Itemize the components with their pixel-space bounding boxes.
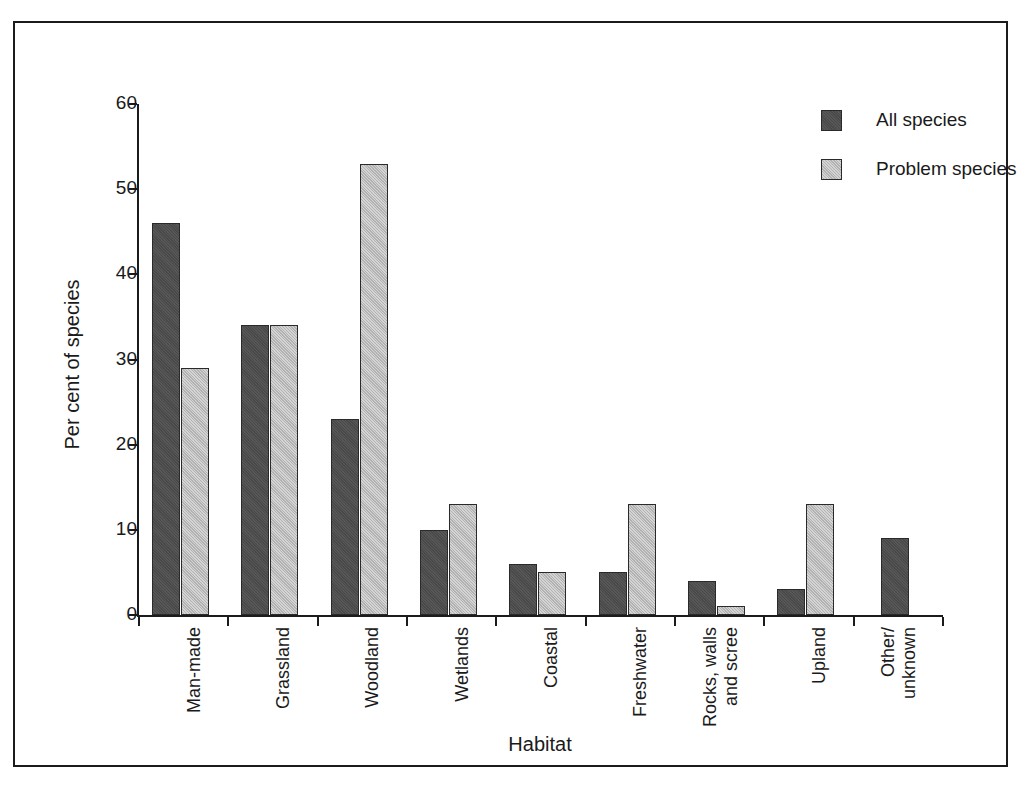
bar-all-species bbox=[599, 572, 627, 615]
chart-legend: All speciesProblem species bbox=[821, 109, 1016, 207]
bar-group bbox=[407, 104, 496, 615]
y-tick-label: 60 bbox=[91, 93, 137, 112]
bar-problem-species bbox=[806, 504, 834, 615]
x-tick-mark bbox=[942, 617, 944, 626]
x-category-label: Grassland bbox=[273, 627, 294, 785]
y-tick-label: 40 bbox=[91, 263, 137, 282]
x-tick-mark bbox=[138, 617, 140, 626]
y-tick: 50 bbox=[15, 188, 137, 190]
x-category-label: Man-made bbox=[184, 627, 205, 785]
x-tick-mark bbox=[853, 617, 855, 626]
x-tick-mark bbox=[674, 617, 676, 626]
bar-group bbox=[318, 104, 407, 615]
y-tick-label: 30 bbox=[91, 349, 137, 368]
bar-problem-species bbox=[270, 325, 298, 615]
x-category-label: Freshwater bbox=[630, 627, 651, 785]
legend-item: All species bbox=[821, 109, 1016, 131]
bar-group bbox=[228, 104, 317, 615]
y-tick-label: 20 bbox=[91, 434, 137, 453]
x-tick-mark bbox=[495, 617, 497, 626]
bar-all-species bbox=[509, 564, 537, 615]
y-tick: 10 bbox=[15, 529, 137, 531]
bar-all-species bbox=[777, 589, 805, 615]
x-category-label: Other/ unknown bbox=[878, 627, 920, 785]
legend-swatch-icon bbox=[821, 159, 842, 180]
x-category-label: Upland bbox=[809, 627, 830, 785]
bar-problem-species bbox=[628, 504, 656, 615]
bar-problem-species bbox=[717, 606, 745, 615]
bar-all-species bbox=[881, 538, 909, 615]
x-tick-mark bbox=[763, 617, 765, 626]
x-category-label: Coastal bbox=[541, 627, 562, 785]
x-tick-mark bbox=[227, 617, 229, 626]
legend-swatch-icon bbox=[821, 110, 842, 131]
x-category-label: Rocks, walls and scree bbox=[700, 627, 742, 785]
bar-all-species bbox=[331, 419, 359, 615]
bar-group bbox=[139, 104, 228, 615]
y-tick-label: 10 bbox=[91, 519, 137, 538]
y-tick-label: 50 bbox=[91, 178, 137, 197]
x-tick-mark bbox=[317, 617, 319, 626]
y-tick-label: 0 bbox=[91, 604, 137, 623]
bar-group bbox=[586, 104, 675, 615]
bar-group bbox=[675, 104, 764, 615]
bar-all-species bbox=[688, 581, 716, 615]
bar-all-species bbox=[420, 530, 448, 615]
bar-group bbox=[496, 104, 585, 615]
bar-all-species bbox=[241, 325, 269, 615]
y-tick: 60 bbox=[15, 103, 137, 105]
y-tick: 0 bbox=[15, 614, 137, 616]
legend-label: Problem species bbox=[876, 158, 1016, 180]
bar-problem-species bbox=[449, 504, 477, 615]
chart-canvas: 0102030405060 Per cent of species Habita… bbox=[0, 0, 1021, 785]
legend-item: Problem species bbox=[821, 158, 1016, 180]
x-tick-mark bbox=[406, 617, 408, 626]
x-category-label: Wetlands bbox=[452, 627, 473, 785]
bar-problem-species bbox=[538, 572, 566, 615]
x-axis-line bbox=[137, 615, 943, 617]
y-axis-title: Per cent of species bbox=[61, 235, 84, 495]
figure-frame: 0102030405060 Per cent of species Habita… bbox=[13, 21, 1008, 767]
bar-all-species bbox=[152, 223, 180, 615]
x-tick-mark bbox=[585, 617, 587, 626]
bar-problem-species bbox=[360, 164, 388, 615]
legend-label: All species bbox=[876, 109, 967, 131]
x-category-label: Woodland bbox=[362, 627, 383, 785]
bar-problem-species bbox=[181, 368, 209, 615]
